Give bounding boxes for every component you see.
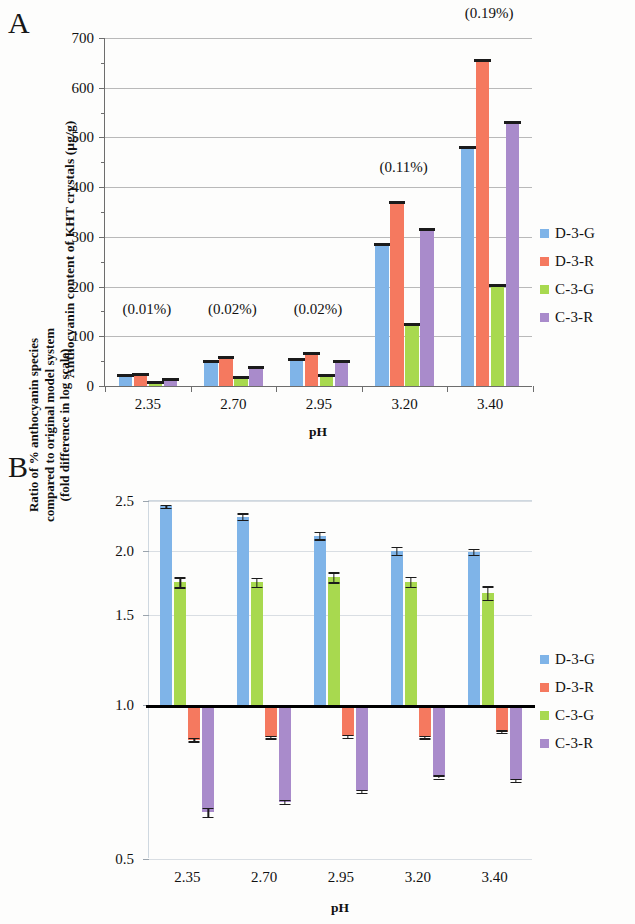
panel-b-x-axis-title: pH [148,900,532,916]
panel-a-y-tick-mark [99,237,105,238]
panel-a-x-tick-label: 3.40 [447,396,533,413]
panel-a-bar-d-3-r-2.95 [305,352,319,386]
panel-b-error-cap [510,779,521,780]
panel-a-y-tick-label: 700 [50,31,94,46]
panel-a-bar-c-3-r-2.35 [164,378,178,386]
panel-a-legend-item-d-3-g: D-3-G [540,219,595,247]
panel-b-bar-c-3-g-2.70 [251,582,263,705]
panel-b-error-cap [433,775,444,776]
panel-b-plot-area: 0.51.01.52.02.52.352.702.953.203.40 [148,500,532,858]
panel-b-error-bar [487,586,488,599]
panel-b-error-cap [419,736,430,737]
panel-b-bar-d-3-r-3.40 [496,705,508,732]
panel-b-bar-d-3-r-3.20 [419,705,431,737]
panel-a-y-minor-tick [101,113,105,114]
panel-a-bar-c-3-g-2.95 [320,374,334,386]
panel-a-x-tick-mark [362,386,363,392]
panel-a-y-tick-mark [99,336,105,337]
panel-b-error-bar [410,577,411,587]
panel-b-error-cap [238,520,249,521]
panel-b-y-axis-title-line: Ratio of % anthocyanin species [26,300,42,550]
panel-b-y-tick-mark [143,501,149,502]
legend-swatch-icon [540,285,549,294]
panel-a-bar-cap [132,373,149,376]
panel-b-bar-d-3-g-3.40 [468,552,480,705]
panel-a-legend-item-d-3-r: D-3-R [540,247,595,275]
panel-a-gridline [105,88,532,89]
panel-b-gridline [149,501,532,502]
panel-a-x-tick-label: 2.95 [276,396,362,413]
panel-b-error-cap [357,793,368,794]
panel-a-bar-d-3-r-2.70 [219,356,233,386]
legend-label: C-3-R [555,309,594,326]
panel-b-bar-d-3-g-2.95 [314,536,326,705]
panel-a-legend-item-c-3-g: C-3-G [540,275,595,303]
panel-b-y-tick-label: 0.5 [94,852,134,867]
panel-a-y-tick-label: 300 [50,229,94,244]
panel-b-y-tick-label: 1.0 [94,697,134,712]
panel-a-bar-c-3-g-3.20 [405,323,419,386]
panel-b-error-cap [468,549,479,550]
panel-a-bar-c-3-r-3.40 [506,121,520,386]
panel-a-bar-d-3-g-2.35 [119,374,133,386]
legend-label: C-3-G [555,281,594,298]
panel-b-error-cap [203,808,214,809]
panel-a-x-axis-title: pH [104,424,532,440]
panel-b-bar-c-3-r-3.40 [510,705,522,780]
panel-b-error-cap [391,547,402,548]
panel-a-x-tick-label: 3.20 [362,396,448,413]
panel-b-error-cap [238,513,249,514]
panel-a-legend-item-c-3-r: C-3-R [540,303,595,331]
panel-a-y-minor-tick [101,162,105,163]
panel-b-bar-c-3-g-3.40 [482,593,494,705]
legend-label: C-3-R [555,735,594,752]
panel-a-bar-cap [419,228,436,231]
panel-b-bar-c-3-g-3.20 [405,582,417,705]
panel-a-gridline [105,137,532,138]
panel-a-y-tick-mark [99,287,105,288]
panel-b-error-cap [315,532,326,533]
panel-a-annotation: (0.01%) [102,301,192,318]
panel-b: B Ratio of % anthocyanin speciescompared… [0,450,635,924]
panel-b-bar-d-3-r-2.95 [342,705,354,736]
panel-a-bar-d-3-r-2.35 [134,373,148,386]
panel-b-error-cap [482,600,493,601]
panel-b-y-tick-label: 1.5 [94,607,134,622]
panel-b-y-axis-title-line: compared to original model system [42,300,58,550]
panel-b-y-axis-title: Ratio of % anthocyanin speciescompared t… [26,300,86,550]
panel-a-bar-d-3-g-3.40 [461,146,475,386]
panel-a-y-minor-tick [101,361,105,362]
panel-a: A Anthocyanin content of KHT crystals (µ… [0,0,635,450]
legend-label: D-3-G [555,651,595,668]
panel-a-bar-cap [389,201,406,204]
panel-a-y-tick-mark [99,187,105,188]
panel-b-error-cap [161,505,172,506]
panel-b-y-tick-mark [143,551,149,552]
panel-a-y-tick-mark [99,88,105,89]
panel-a-legend: D-3-GD-3-RC-3-GC-3-R [540,219,595,331]
panel-a-bar-d-3-g-2.95 [290,358,304,386]
panel-a-bar-c-3-g-2.35 [149,381,163,386]
legend-swatch-icon [540,257,549,266]
panel-b-error-cap [315,539,326,540]
panel-b-error-cap [496,730,507,731]
panel-a-x-tick-mark [105,386,106,392]
panel-a-x-tick-mark [447,386,448,392]
panel-a-bar-cap [474,59,491,62]
panel-b-bar-c-3-r-3.20 [433,705,445,777]
panel-a-bar-cap [248,366,265,369]
panel-b-error-cap [405,587,416,588]
panel-a-annotation: (0.02%) [273,301,363,318]
panel-b-error-bar [333,572,334,582]
panel-a-y-minor-tick [101,63,105,64]
panel-a-bar-cap [459,146,476,149]
panel-a-bar-cap [147,381,164,384]
legend-swatch-icon [540,711,549,720]
panel-a-bar-cap [318,374,335,377]
panel-b-error-cap [405,577,416,578]
panel-a-annotation: (0.02%) [187,301,277,318]
panel-b-error-cap [189,741,200,742]
panel-b-gridline [149,859,532,860]
panel-a-bar-c-3-g-2.70 [234,376,248,386]
panel-a-y-tick-label: 600 [50,80,94,95]
